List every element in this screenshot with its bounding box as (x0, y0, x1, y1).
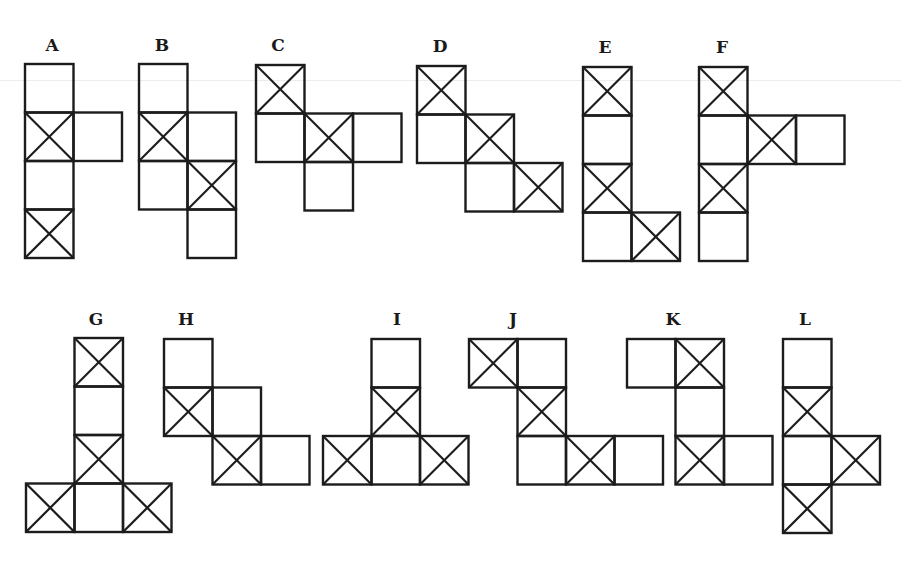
blank-square (583, 116, 632, 165)
figure-label-i: I (393, 309, 401, 329)
crossed-square (676, 339, 725, 388)
crossed-square (123, 484, 172, 533)
blank-square (699, 213, 748, 262)
crossed-square (25, 113, 74, 162)
blank-square (724, 436, 773, 485)
blank-square (627, 339, 676, 388)
figure-label-f: F (716, 37, 728, 57)
blank-square (783, 436, 832, 485)
crossed-square (748, 116, 797, 165)
blank-square (213, 388, 262, 437)
crossed-square (213, 436, 262, 485)
crossed-square (75, 338, 124, 387)
blank-square (74, 113, 123, 162)
blank-square (583, 213, 632, 262)
blank-square (372, 339, 421, 388)
crossed-square (632, 213, 681, 262)
figure-label-g: G (89, 309, 104, 329)
net-figure-f (698, 66, 846, 262)
figure-label-a: A (45, 35, 58, 55)
crossed-square (139, 113, 188, 162)
blank-square (518, 436, 567, 485)
crossed-square (420, 436, 469, 485)
figure-label-h: H (178, 309, 194, 329)
blank-square (139, 161, 188, 210)
crossed-square (514, 163, 563, 212)
blank-square (164, 339, 213, 388)
crossed-square (26, 484, 75, 533)
net-figure-c (255, 64, 403, 212)
blank-square (261, 436, 310, 485)
crossed-square (699, 164, 748, 213)
net-figure-a (24, 63, 123, 259)
crossed-square (372, 388, 421, 437)
net-figure-l (782, 338, 881, 534)
crossed-square (566, 436, 615, 485)
net-figure-b (138, 63, 237, 259)
blank-square (139, 64, 188, 113)
net-figure-k (626, 338, 774, 486)
figure-label-c: C (271, 35, 285, 55)
crossed-square (25, 210, 74, 259)
crossed-square (832, 436, 881, 485)
blank-square (188, 113, 237, 162)
figure-label-b: B (155, 35, 169, 55)
blank-square (699, 116, 748, 165)
blank-square (466, 163, 515, 212)
figure-label-e: E (599, 37, 612, 57)
net-figure-h (163, 338, 311, 486)
crossed-square (323, 436, 372, 485)
crossed-square (783, 388, 832, 437)
crossed-square (188, 161, 237, 210)
blank-square (75, 484, 124, 533)
cube-nets-diagram: ABCDEFGHIJKL (0, 0, 901, 566)
crossed-square (583, 164, 632, 213)
net-figure-d (416, 65, 564, 213)
blank-square (75, 387, 124, 436)
crossed-square (417, 66, 466, 115)
crossed-square (256, 65, 305, 114)
blank-square (783, 339, 832, 388)
net-figure-i (322, 338, 470, 486)
crossed-square (699, 67, 748, 116)
figure-label-j: J (509, 309, 517, 329)
blank-square (25, 161, 74, 210)
crossed-square (469, 339, 518, 388)
crossed-square (783, 485, 832, 534)
blank-square (796, 116, 845, 165)
figure-label-d: D (433, 36, 448, 56)
net-figure-g (25, 337, 173, 533)
figure-label-k: K (666, 309, 681, 329)
blank-square (188, 210, 237, 259)
blank-square (305, 162, 354, 211)
crossed-square (676, 436, 725, 485)
crossed-square (305, 114, 354, 163)
crossed-square (518, 388, 567, 437)
crossed-square (583, 67, 632, 116)
blank-square (25, 64, 74, 113)
blank-square (372, 436, 421, 485)
blank-square (676, 388, 725, 437)
crossed-square (164, 388, 213, 437)
blank-square (256, 114, 305, 163)
blank-square (518, 339, 567, 388)
blank-square (353, 114, 402, 163)
blank-square (417, 115, 466, 164)
crossed-square (466, 115, 515, 164)
figure-label-l: L (799, 309, 811, 329)
net-figure-e (582, 66, 681, 262)
crossed-square (75, 435, 124, 484)
